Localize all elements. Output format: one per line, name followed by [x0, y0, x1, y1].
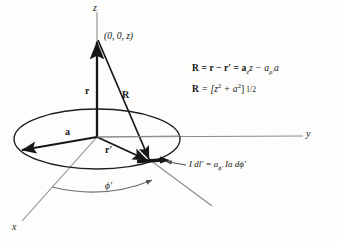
phi-angle-arc	[52, 180, 152, 192]
figure-canvas: z y x (0, 0, z) r R a r′ ϕ′ I dl′ = aϕ′ …	[0, 0, 338, 242]
current-element-bar	[137, 160, 163, 162]
eq2-lhs: R	[192, 84, 199, 94]
eq1-tail: a	[274, 63, 279, 73]
z-axis-label: z	[93, 3, 97, 13]
vector-r-prime-label: r′	[105, 145, 112, 155]
eq2-body: = [z	[199, 84, 218, 94]
element-prefix: I dl′ = a	[189, 159, 218, 169]
vector-a-label: a	[65, 127, 70, 137]
x-axis-line	[22, 137, 97, 221]
element-mid: Ia d	[223, 159, 240, 169]
eq2-plus: + a	[221, 84, 237, 94]
eq2-exponent: 1/2	[246, 85, 256, 94]
eq1-mid: z − a	[249, 63, 269, 73]
vector-r-label: r	[85, 86, 89, 96]
element-leader-line	[166, 162, 186, 166]
field-point-label: (0, 0, z)	[104, 32, 133, 42]
eq1-lhs: R	[192, 63, 199, 73]
vector-R-label: R	[122, 90, 129, 100]
eq2-close: ]	[241, 84, 244, 94]
vector-a-line	[22, 137, 97, 150]
element-suffix: ϕ′	[239, 159, 246, 169]
equation-R-vector: R = r − r′ = azz − aρ′a	[192, 64, 279, 75]
y-axis-label: y	[306, 129, 310, 139]
eq1-body: = r − r′ = a	[199, 63, 246, 73]
current-element-arrowhead	[160, 157, 170, 164]
equation-R-magnitude: R = [z2 + a2]1/2	[192, 83, 256, 95]
diagram-svg	[0, 0, 338, 242]
field-point-text: (0, 0, z)	[104, 31, 133, 41]
x-axis-label: x	[12, 222, 16, 232]
current-element-label: I dl′ = aϕ′ Ia dϕ′	[189, 160, 246, 171]
phi-prime-label: ϕ′	[105, 182, 112, 192]
